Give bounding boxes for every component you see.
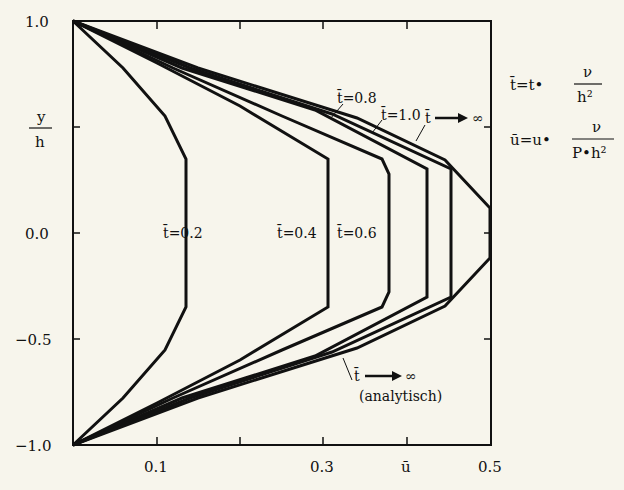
label-t-inf-top: t̄ [425,109,431,126]
y-axis-label-den: h [35,133,45,151]
y-tick-0.0: 0.0 [25,225,49,243]
label-inf-bottom: ∞ [405,368,417,384]
chart: t̄=0.2 t̄=0.4 t̄=0.6 t̄=0.8 t̄=1.0 t̄ ∞ … [0,0,624,490]
formula-t-lhs: t̄=t• [510,76,543,94]
label-t-inf-bottom: t̄ [354,367,360,384]
leader-t-inf-top [416,125,425,141]
formula-t-den: h² [577,88,593,106]
arrow-bottom-head [392,371,402,381]
x-axis-label: ū [401,458,411,476]
label-inf-top: ∞ [472,110,484,126]
label-t-0.8: t̄=0.8 [337,89,377,106]
curve-t-1.0 [73,21,451,445]
label-t-0.2: t̄=0.2 [163,224,203,241]
formula-t-num: ν [583,63,592,81]
label-t-1.0: t̄=1.0 [381,106,421,123]
x-tick-0.3: 0.3 [310,458,334,476]
formula-u-num: ν [592,118,601,136]
arrow-top-head [458,113,468,123]
label-t-0.6: t̄=0.6 [337,224,377,241]
y-tick-minus-0.5: −0.5 [15,331,51,349]
leader-t-inf-bottom [343,358,352,380]
formula-u: ū=u• ν P•h² [510,118,614,162]
y-tick-minus-1.0: −1.0 [15,437,51,455]
formula-u-den: P•h² [572,144,607,162]
label-analytisch: (analytisch) [359,388,442,404]
label-t-0.4: t̄=0.4 [277,224,317,241]
x-tick-0.1: 0.1 [144,458,168,476]
y-tick-1.0: 1.0 [25,13,49,31]
formula-t: t̄=t• ν h² [510,63,602,106]
x-tick-0.5: 0.5 [478,458,502,476]
y-axis-label-num: y [36,108,46,126]
formula-u-lhs: ū=u• [510,131,551,149]
